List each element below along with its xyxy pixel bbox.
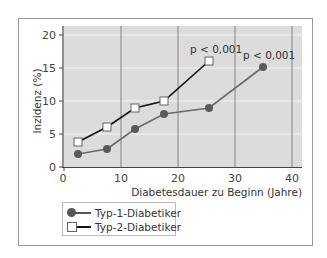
y-tick-0: 0: [49, 161, 56, 174]
y-tick-15: 15: [42, 62, 56, 75]
x-axis-label: Diabetesdauer zu Beginn (Jahre): [131, 186, 302, 198]
legend: Typ-1-Diabetiker Typ-2-Diabetiker: [62, 202, 176, 236]
y-axis-label: Inzidenz (%): [31, 69, 43, 134]
x-tick-30: 30: [228, 172, 242, 185]
open-square-marker-icon: [67, 220, 91, 234]
x-tick-20: 20: [171, 172, 185, 185]
filled-circle-marker-icon: [67, 206, 91, 220]
legend-label-typ1: Typ-1-Diabetiker: [95, 207, 181, 219]
x-tick-40: 40: [285, 172, 299, 185]
annotation-typ2-pvalue: p < 0,001: [190, 43, 242, 55]
legend-label-typ2: Typ-2-Diabetiker: [95, 221, 181, 233]
annotation-typ1-pvalue: p < 0,001: [243, 49, 295, 61]
x-tick-10: 10: [114, 172, 128, 185]
y-tick-5: 5: [49, 128, 56, 141]
y-tick-10: 10: [42, 95, 56, 108]
legend-item-typ2: Typ-2-Diabetiker: [67, 220, 181, 234]
legend-item-typ1: Typ-1-Diabetiker: [67, 206, 181, 220]
y-tick-20: 20: [42, 29, 56, 42]
plot-area: [62, 26, 302, 167]
x-tick-0: 0: [60, 172, 67, 185]
